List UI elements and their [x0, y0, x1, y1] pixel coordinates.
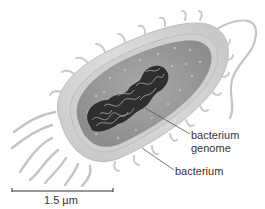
label-bacterium: bacterium	[175, 165, 223, 178]
label-bacterium-genome: bacterium genome	[191, 129, 239, 155]
leader-line-bacterium	[142, 148, 174, 170]
scale-bar-label: 1.5 µm	[44, 194, 78, 207]
label-genome-line2: genome	[191, 142, 239, 155]
bacterium-illustration	[0, 0, 265, 209]
label-genome-line1: bacterium	[191, 129, 239, 142]
bacterium-diagram: bacterium genome bacterium 1.5 µm	[0, 0, 265, 209]
scale-bar	[12, 188, 113, 192]
